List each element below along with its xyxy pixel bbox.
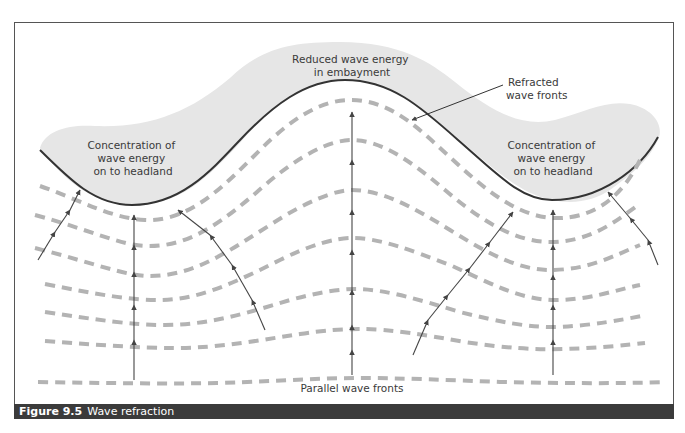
figure-title: Wave refraction — [87, 405, 174, 418]
right-headland-label: Concentration of wave energy on to headl… — [507, 139, 598, 177]
figure-caption: Figure 9.5Wave refraction — [19, 404, 174, 419]
left-headland-label: Concentration of wave energy on to headl… — [87, 139, 178, 177]
parallel-label: Parallel wave fronts — [300, 382, 403, 394]
wave-refraction-diagram: Concentration of wave energy on to headl… — [0, 0, 685, 433]
refracted-label: Refracted wave fronts — [506, 76, 567, 101]
figure-number: Figure 9.5 — [19, 405, 82, 418]
